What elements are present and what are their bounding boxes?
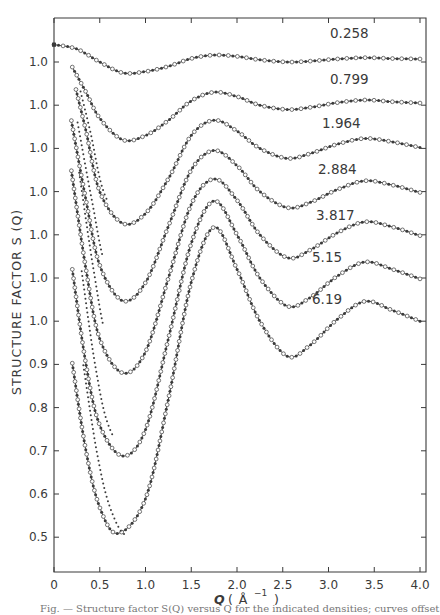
curve-label-0.258: 0.258 [330, 25, 369, 41]
curve-label-3.817: 3.817 [316, 207, 355, 223]
x-axis-ticks: 00.51.01.52.02.53.03.54.0 [50, 18, 429, 592]
curve-label-5.15: 5.15 [312, 249, 342, 265]
x-tick-label: 2.0 [227, 578, 246, 592]
y-tick-label: 0.6 [29, 487, 48, 501]
curve-label-2.884: 2.884 [318, 161, 357, 177]
y-tick-label: 0.9 [29, 357, 48, 371]
chart-canvas: 00.51.01.52.02.53.03.54.0 1.01.01.01.01.… [0, 0, 440, 615]
curve-label-0.799: 0.799 [330, 71, 369, 87]
x-tick-label: 2.5 [273, 578, 292, 592]
x-tick-label: 1.5 [182, 578, 201, 592]
curve-2.884 [69, 119, 421, 303]
curve-6.19 [70, 226, 421, 535]
curve-1.964 [74, 88, 421, 226]
x-tick-label: 3.5 [365, 578, 384, 592]
y-tick-label: 1.0 [29, 185, 48, 199]
y-tick-label: 1.0 [29, 98, 48, 112]
structure-factor-chart: 00.51.01.52.02.53.03.54.0 1.01.01.01.01.… [0, 0, 440, 615]
curve-label-6.19: 6.19 [312, 291, 342, 307]
curve-label-1.964: 1.964 [322, 115, 361, 131]
y-tick-label: 1.0 [29, 271, 48, 285]
x-tick-label: 4.0 [410, 578, 429, 592]
y-tick-label: 0.7 [29, 444, 48, 458]
curve-0.799 [70, 65, 422, 142]
curve-5.15 [70, 200, 422, 458]
y-axis-title: STRUCTURE FACTOR S (Q) [9, 209, 24, 395]
y-tick-label: 0.5 [29, 530, 48, 544]
x-axis-title-exponent: −1 [254, 588, 267, 598]
x-tick-label: 1.0 [136, 578, 155, 592]
y-tick-label: 1.0 [29, 314, 48, 328]
curve-3.817 [69, 169, 421, 375]
y-tick-label: 1.0 [29, 141, 48, 155]
x-tick-label: 0.5 [90, 578, 109, 592]
y-tick-label: 1.0 [29, 228, 48, 242]
y-axis-ticks: 1.01.01.01.01.01.01.00.90.80.70.60.5 [29, 55, 426, 544]
figure-caption: Fig. — Structure factor S(Q) versus Q fo… [40, 603, 440, 615]
data-curves [52, 43, 422, 535]
y-tick-label: 1.0 [29, 55, 48, 69]
y-tick-label: 0.8 [29, 401, 48, 415]
x-tick-label: 0 [50, 578, 58, 592]
x-tick-label: 3.0 [319, 578, 338, 592]
